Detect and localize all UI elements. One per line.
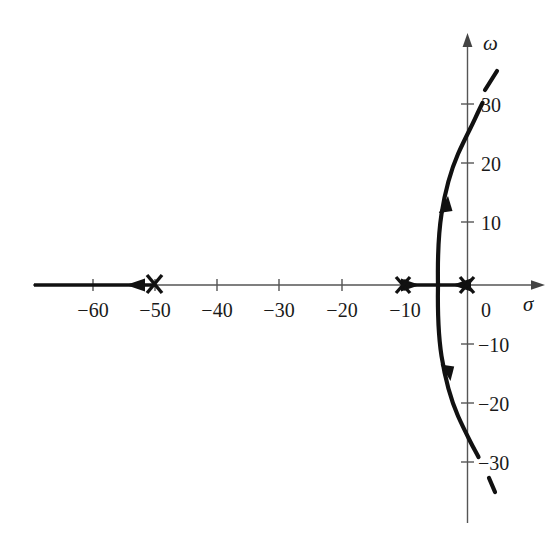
- asymptote-stubs: [485, 71, 497, 492]
- locus-branch-lower: [438, 285, 479, 457]
- omega-tick-label: 20: [481, 153, 501, 175]
- sigma-tick-label: −10: [389, 299, 420, 321]
- axis-group: [33, 33, 545, 523]
- sigma-axis-label: σ: [523, 292, 535, 316]
- sigma-tick-label: 0: [481, 299, 491, 321]
- sigma-tick-label: −20: [326, 299, 357, 321]
- asymptote-stub-lower: [489, 478, 495, 492]
- complex-locus-branches: [438, 103, 483, 457]
- sigma-tick-label: −50: [139, 299, 170, 321]
- omega-tick-label: 10: [481, 212, 501, 234]
- sigma-tick-label: −40: [201, 299, 232, 321]
- omega-tick-label: −10: [478, 334, 509, 356]
- root-locus-canvas: −60 −50 −40 −30 −20 −10 0 30 20 10 −10 −…: [0, 0, 560, 549]
- sigma-tick-labels: −60 −50 −40 −30 −20 −10 0: [77, 299, 491, 321]
- omega-tick-label: −20: [478, 393, 509, 415]
- asymptote-stub-upper: [485, 71, 497, 90]
- locus-direction-arrow-left: [126, 279, 145, 292]
- omega-axis-label: ω: [483, 31, 498, 55]
- sigma-axis-arrowhead: [531, 280, 545, 290]
- omega-tick-label: −30: [478, 452, 509, 474]
- root-locus-figure: −60 −50 −40 −30 −20 −10 0 30 20 10 −10 −…: [0, 0, 560, 549]
- locus-branch-upper: [438, 103, 483, 285]
- omega-tick-label: 30: [481, 94, 501, 116]
- omega-axis-arrowhead: [463, 33, 473, 47]
- omega-tick-labels: 30 20 10 −10 −20 −30: [478, 94, 509, 474]
- sigma-tick-label: −60: [77, 299, 108, 321]
- sigma-tick-label: −30: [263, 299, 294, 321]
